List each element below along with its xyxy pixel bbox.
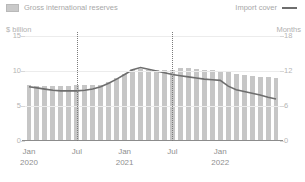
event-marker-line [77,32,78,141]
x-axis-label-month: Jan [214,147,227,156]
axis-tick-dash [280,141,284,142]
legend-item-import-cover: Import cover [235,4,297,12]
x-axis-label-year: 2021 [116,157,134,168]
axis-tick-dash [21,106,25,107]
bar-swatch-icon [6,4,19,12]
right-axis-tick: 0 [284,137,288,145]
legend-label-line: Import cover [235,4,277,12]
right-axis-tick: 6 [284,102,288,110]
x-axis-baseline [22,140,283,141]
gridline [25,36,280,37]
x-axis-label-month: Jan [23,147,36,156]
x-axis-label: Jan2021 [116,146,134,168]
x-axis-label-year: 2022 [211,157,229,168]
axis-tick-dash [280,71,284,72]
x-axis-labels: Jan2020JulJan2021JulJan2022 [25,146,280,176]
x-axis-label: Jan2020 [20,146,38,168]
axis-tick-dash [280,36,284,37]
x-axis-label-year: 2020 [20,157,38,168]
axis-tick-dash [21,36,25,37]
x-axis-label: Jul [72,146,82,157]
x-axis-label: Jan2022 [211,146,229,168]
line-swatch-icon [282,7,297,9]
left-axis-tick: 10 [13,67,21,75]
right-axis-tick: 18 [284,32,292,40]
axis-tick-dash [21,141,25,142]
plot-area: 151810125600 [25,36,280,141]
axis-tick-dash [280,106,284,107]
legend-item-gross-international-reserves: Gross international reserves [6,4,118,12]
chart-legend: Gross international reserves Import cove… [0,4,301,16]
x-axis-label-month: Jan [118,147,131,156]
legend-label-bar: Gross international reserves [24,4,118,12]
import-cover-line [29,68,276,100]
right-axis-tick: 12 [284,67,292,75]
axis-tick-dash [21,71,25,72]
x-axis-label-month: Jul [167,147,177,156]
gridline [25,106,280,107]
x-axis-label: Jul [167,146,177,157]
line-series [25,36,280,141]
chart-root: Gross international reserves Import cove… [0,0,305,182]
left-axis-tick: 15 [13,32,21,40]
event-marker-line [172,32,173,141]
x-axis-label-month: Jul [72,147,82,156]
gridline [25,71,280,72]
